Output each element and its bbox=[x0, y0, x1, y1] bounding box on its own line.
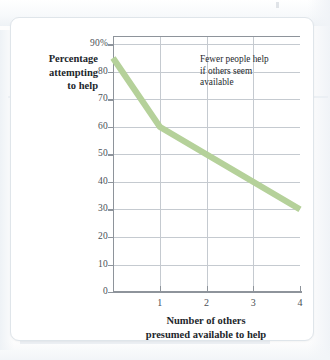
scanned-page: 0102030405060708090% 1234 Percentage att… bbox=[0, 0, 330, 360]
chart-annotation-line-2: if others seem bbox=[200, 66, 308, 78]
x-axis-title-line-1: Number of others bbox=[95, 314, 317, 328]
y-axis-title-line-3: to help bbox=[12, 79, 98, 93]
y-axis-title-line-2: attempting bbox=[12, 66, 98, 80]
y-axis-title-line-1: Percentage bbox=[12, 52, 98, 66]
chart-annotation-line-3: available bbox=[200, 77, 308, 89]
line-chart: 0102030405060708090% 1234 Percentage att… bbox=[0, 0, 330, 360]
x-axis-title-line-2: presumed available to help bbox=[95, 328, 317, 342]
chart-annotation: Fewer people help if others seem availab… bbox=[200, 54, 308, 89]
chart-annotation-line-1: Fewer people help bbox=[200, 54, 308, 66]
y-axis-title: Percentage attempting to help bbox=[12, 52, 98, 93]
x-axis-title: Number of others presumed available to h… bbox=[95, 314, 317, 341]
